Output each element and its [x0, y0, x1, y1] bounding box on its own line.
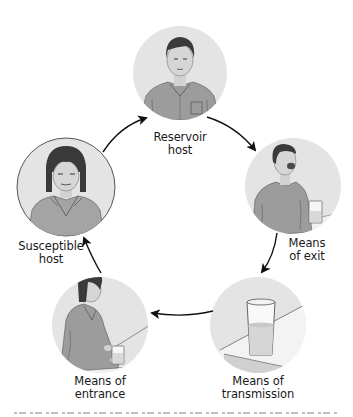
label-means-of-exit: Means of exit [282, 237, 332, 263]
label-reservoir-host: Reservoir host [148, 131, 212, 157]
label-means-of-entrance: Means of entrance [68, 375, 132, 401]
node-means-of-entrance [52, 270, 150, 380]
label-line: transmission [218, 388, 298, 401]
label-line: host [148, 144, 212, 157]
arrow-reservoir-to-exit [207, 117, 255, 150]
label-means-of-transmission: Means of transmission [218, 375, 298, 401]
arrow-susceptible-to-reservoir [103, 118, 146, 152]
label-line: of exit [282, 250, 332, 263]
label-line: host [14, 253, 88, 266]
label-susceptible-host: Susceptible host [14, 240, 88, 266]
arrow-exit-to-transmission [262, 233, 277, 272]
chain-of-infection-diagram: Reservoir host Means of exit Means of tr… [0, 0, 353, 417]
cropped-caption-fragment [14, 411, 339, 417]
node-means-of-transmission [210, 277, 312, 380]
node-reservoir-host [133, 26, 227, 120]
diagram-canvas [0, 0, 353, 417]
arrow-transmission-to-entrance [152, 311, 213, 315]
node-means-of-exit [245, 138, 342, 240]
label-line: entrance [68, 388, 132, 401]
node-susceptible-host [17, 138, 115, 236]
